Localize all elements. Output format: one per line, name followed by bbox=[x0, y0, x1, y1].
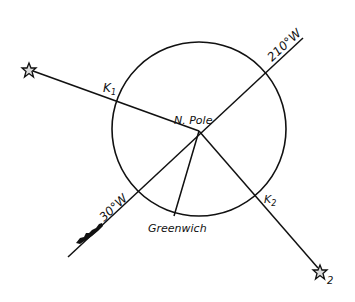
pole-label: N. Pole bbox=[174, 114, 213, 127]
meridian-30-label: 30°W bbox=[96, 191, 131, 225]
star1-icon bbox=[22, 63, 36, 77]
k2-label: K2 bbox=[264, 193, 276, 208]
greenwich-line bbox=[174, 131, 199, 216]
ship-icon bbox=[76, 223, 103, 244]
k1-label: K1 bbox=[103, 81, 116, 97]
greenwich-label: Greenwich bbox=[148, 222, 207, 235]
horizon-circle bbox=[112, 42, 286, 216]
meridian-210-label: 210°W bbox=[264, 25, 304, 64]
star2-subscript: 2 bbox=[327, 275, 333, 286]
star2-icon bbox=[313, 265, 327, 279]
star2-line bbox=[199, 131, 318, 268]
polar-diagram: 2 K1 N. Pole 210°W 30°W Greenwich K2 bbox=[0, 0, 355, 302]
